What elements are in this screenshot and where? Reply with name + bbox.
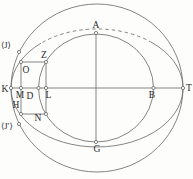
label-B: B [149, 90, 155, 100]
label-K: K [2, 84, 9, 94]
label-D: D [27, 91, 34, 101]
label-H: H [13, 100, 20, 110]
point-J-prime [17, 122, 20, 125]
point-K [9, 86, 12, 89]
point-T [181, 86, 184, 89]
diagram-svg: A⟨J⟩ZOKMDLBTHN⟨J′⟩G [0, 0, 193, 179]
geometry-figure: A⟨J⟩ZOKMDLBTHN⟨J′⟩G [0, 0, 193, 179]
label-G: G [94, 144, 101, 154]
label-N: N [35, 113, 42, 123]
point-N [44, 112, 47, 115]
label-J-prime: ⟨J′⟩ [1, 121, 13, 131]
point-A [94, 31, 97, 34]
label-Z: Z [41, 50, 47, 60]
point-H [19, 112, 22, 115]
point-D [37, 86, 40, 89]
label-O: O [23, 65, 30, 75]
label-A: A [93, 20, 100, 30]
middle-ellipse-solid-arc [11, 43, 183, 147]
point-Z [44, 60, 47, 63]
point-labels-layer: A⟨J⟩ZOKMDLBTHN⟨J′⟩G [1, 20, 192, 154]
label-M: M [16, 90, 25, 100]
point-markers-layer [9, 31, 184, 143]
point-J [17, 50, 20, 53]
point-O [19, 60, 22, 63]
label-L: L [46, 90, 52, 100]
label-J: ⟨J⟩ [1, 40, 11, 50]
label-T: T [186, 83, 192, 93]
